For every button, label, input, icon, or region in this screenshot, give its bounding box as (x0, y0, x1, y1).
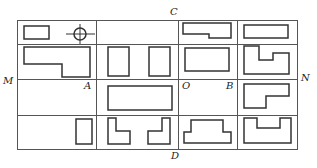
notched-rectangle-shape (183, 23, 231, 38)
label-m: M (3, 76, 13, 86)
l-shape-right (148, 118, 170, 144)
outer-border (18, 21, 298, 150)
label-n: N (301, 73, 310, 83)
l-shape-left (108, 118, 130, 144)
circle-crosshair-icon (66, 24, 95, 44)
l-stepped-shape (244, 84, 289, 108)
l-wide-shape (24, 47, 90, 77)
wide-rectangle-shape (244, 25, 288, 38)
grid-diagram (0, 0, 317, 168)
diagram-canvas: C D M N A O B (0, 0, 317, 168)
label-o: O (182, 81, 190, 91)
stepped-base-shape (184, 120, 231, 143)
label-c: C (170, 7, 178, 17)
rectangle-shape (185, 48, 229, 71)
label-a: A (84, 81, 91, 91)
wide-rectangle-middle (108, 86, 172, 110)
label-b: B (226, 81, 233, 91)
tall-rectangle-right (149, 47, 170, 76)
stepped-notch-shape (244, 46, 289, 74)
tall-rectangle-left (108, 47, 129, 76)
label-d: D (171, 151, 179, 161)
u-shape (244, 118, 291, 143)
narrow-rectangle-shape (76, 119, 92, 144)
small-rectangle-shape (24, 26, 49, 39)
